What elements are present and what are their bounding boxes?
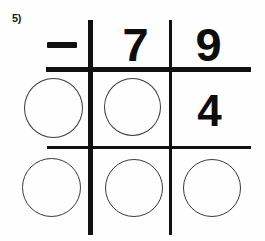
- answer-circle-row3-col1[interactable]: [22, 158, 81, 217]
- digit-tens-minuend: 7: [113, 21, 158, 68]
- answer-circle-row2-col1[interactable]: [24, 78, 83, 138]
- digit-ones-minuend: 9: [186, 21, 231, 68]
- vertical-divider-right: [169, 20, 172, 235]
- answer-circle-row3-col2[interactable]: [105, 159, 163, 217]
- answer-circle-row2-col2[interactable]: [104, 78, 161, 136]
- answer-circle-row3-col3[interactable]: [183, 159, 241, 217]
- digit-ones-subtrahend: 4: [187, 89, 232, 133]
- horizontal-divider-bottom: [47, 146, 251, 149]
- math-worksheet-problem: 5) 7 9 4: [0, 0, 265, 241]
- vertical-divider-left: [88, 20, 93, 235]
- minus-sign-icon: [47, 42, 77, 48]
- problem-number-label: 5): [12, 13, 21, 24]
